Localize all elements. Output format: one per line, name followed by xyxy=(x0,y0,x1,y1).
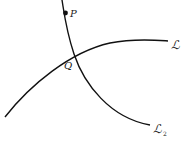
diagram-canvas: P Q ℒ ℒ 2 xyxy=(0,0,187,145)
label-L2-subscript: 2 xyxy=(163,130,167,137)
curve-L xyxy=(5,40,168,117)
label-Q: Q xyxy=(64,60,72,71)
label-P: P xyxy=(69,8,77,19)
label-L2: ℒ xyxy=(153,122,162,136)
label-L: ℒ xyxy=(171,38,180,52)
point-P-dot xyxy=(63,11,68,16)
